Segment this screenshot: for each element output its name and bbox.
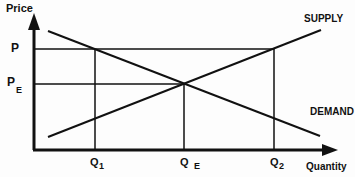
x-axis-label: Quantity <box>306 161 347 172</box>
y-axis-arrow-icon <box>28 13 40 30</box>
quantity-qe-label: Q <box>180 156 189 168</box>
quantity-q1-subscript: 1 <box>99 161 104 171</box>
quantity-q2-label: Q <box>270 156 279 168</box>
price-pe-label: P <box>7 75 15 89</box>
diagram-canvas: Price Quantity SUPPLY DEMAND P P E Q 1 Q… <box>0 0 355 177</box>
quantity-q2-subscript: 2 <box>279 161 284 171</box>
supply-demand-diagram: Price Quantity SUPPLY DEMAND P P E Q 1 Q… <box>0 0 355 177</box>
price-p-label: P <box>11 41 19 55</box>
quantity-qe-subscript: E <box>194 161 200 171</box>
quantity-q1-label: Q <box>90 156 99 168</box>
y-axis-label: Price <box>6 2 33 14</box>
x-axis-arrow-icon <box>322 144 338 156</box>
price-pe-subscript: E <box>16 85 22 95</box>
demand-label: DEMAND <box>310 106 354 117</box>
supply-label: SUPPLY <box>304 13 343 24</box>
